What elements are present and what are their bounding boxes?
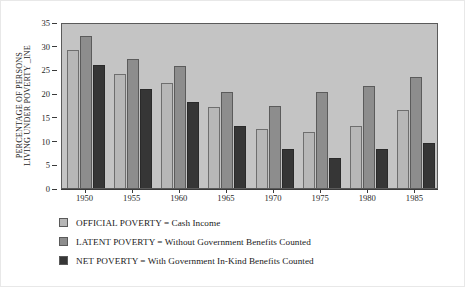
y-axis-tick-label: 35 (42, 18, 51, 28)
bar-1960-official-poverty (161, 83, 173, 188)
y-axis-tick-labels: 05101520253035 (37, 17, 57, 197)
bar-group-1950 (67, 24, 106, 188)
legend-item-label: LATENT POVERTY = Without Government Bene… (76, 237, 311, 247)
bar-1955-net-poverty (140, 89, 152, 188)
legend-item-label: NET POVERTY = With Government In-Kind Be… (76, 256, 314, 266)
y-axis-tick-mark (52, 189, 57, 190)
y-axis-tick-mark (52, 23, 57, 24)
bar-1985-net-poverty (423, 143, 435, 188)
x-axis-tick-label-1985: 1985 (406, 193, 423, 203)
bar-1975-net-poverty (329, 158, 341, 188)
legend-item-net-poverty[interactable]: NET POVERTY = With Government In-Kind Be… (59, 251, 449, 270)
legend-item-label: OFFICIAL POVERTY = Cash Income (76, 218, 220, 228)
bar-group-1980 (350, 24, 389, 188)
y-axis-tick-mark (52, 165, 57, 166)
bar-1965-net-poverty (234, 126, 246, 188)
bar-1955-official-poverty (114, 74, 126, 188)
y-axis-tick-mark (52, 117, 57, 118)
bar-1980-net-poverty (376, 149, 388, 188)
y-axis-tick-label: 30 (42, 42, 51, 52)
chart-figure: PERCENTAGE OF PERSONS LIVING UNDER POVER… (0, 0, 465, 287)
chart-legend: OFFICIAL POVERTY = Cash IncomeLATENT POV… (59, 213, 449, 270)
x-axis-tick-label-1960: 1960 (170, 193, 187, 203)
y-axis-title-line-2: LIVING UNDER POVERTY _INE (24, 45, 32, 166)
bar-1950-net-poverty (93, 65, 105, 188)
y-axis-title: PERCENTAGE OF PERSONS LIVING UNDER POVER… (11, 19, 37, 191)
x-axis-tick-label-1980: 1980 (359, 193, 376, 203)
y-axis-tick-mark (52, 141, 57, 142)
y-axis-tick-30: 30 (42, 42, 58, 52)
x-axis-tick-label-1950: 1950 (76, 193, 93, 203)
bar-1960-net-poverty (187, 102, 199, 188)
x-axis-tick-label-1955: 1955 (123, 193, 140, 203)
bar-1975-official-poverty (303, 132, 315, 188)
bar-group-1985 (397, 24, 436, 188)
x-axis-tick-label-1965: 1965 (217, 193, 234, 203)
bar-1975-latent-poverty (316, 92, 328, 188)
bar-group-1965 (208, 24, 247, 188)
bar-group-1970 (256, 24, 295, 188)
bar-1985-latent-poverty (410, 77, 422, 188)
legend-swatch-icon (59, 218, 68, 227)
x-axis-tick-label-1970: 1970 (264, 193, 281, 203)
y-axis-tick-20: 20 (42, 89, 58, 99)
y-axis-tick-10: 10 (42, 137, 58, 147)
legend-item-official-poverty[interactable]: OFFICIAL POVERTY = Cash Income (59, 213, 449, 232)
x-axis-tick-label-1975: 1975 (312, 193, 329, 203)
bar-1965-official-poverty (208, 107, 220, 188)
bar-1960-latent-poverty (174, 66, 186, 188)
bar-group-1975 (303, 24, 342, 188)
x-axis-tick-labels: 19501955196019651970197519801985 (61, 191, 438, 207)
bar-1970-official-poverty (256, 129, 268, 188)
y-axis-tick-label: 0 (46, 184, 50, 194)
bar-1965-latent-poverty (221, 92, 233, 188)
legend-swatch-icon (59, 256, 68, 265)
y-axis-tick-label: 5 (46, 160, 50, 170)
bar-1970-latent-poverty (269, 106, 281, 188)
y-axis-tick-5: 5 (46, 160, 57, 170)
y-axis-tick-label: 20 (42, 89, 51, 99)
bar-1950-latent-poverty (80, 36, 92, 188)
bar-group-1960 (161, 24, 200, 188)
y-axis-tick-mark (52, 94, 57, 95)
y-axis-tick-label: 15 (42, 113, 51, 123)
bar-1950-official-poverty (67, 50, 79, 188)
bar-group-1955 (114, 24, 153, 188)
y-axis-tick-mark (52, 46, 57, 47)
y-axis-tick-label: 25 (42, 65, 51, 75)
bar-1985-official-poverty (397, 110, 409, 188)
y-axis-tick-0: 0 (46, 184, 57, 194)
bar-1980-latent-poverty (363, 86, 375, 188)
bar-1980-official-poverty (350, 126, 362, 188)
y-axis-tick-25: 25 (42, 65, 58, 75)
y-axis-tick-15: 15 (42, 113, 58, 123)
plot-area (61, 23, 438, 189)
bar-1955-latent-poverty (127, 59, 139, 188)
y-axis-tick-label: 10 (42, 137, 51, 147)
bar-1970-net-poverty (282, 149, 294, 188)
y-axis-tick-35: 35 (42, 18, 58, 28)
legend-item-latent-poverty[interactable]: LATENT POVERTY = Without Government Bene… (59, 232, 449, 251)
x-axis-line (61, 189, 438, 190)
y-axis-tick-mark (52, 70, 57, 71)
legend-swatch-icon (59, 237, 68, 246)
bars-container (62, 24, 437, 188)
